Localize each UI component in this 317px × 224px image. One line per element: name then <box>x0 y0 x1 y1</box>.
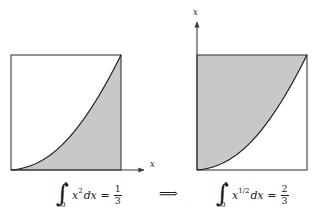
left-axis-label: x <box>150 160 155 169</box>
left-integrand-exponent: 2 <box>78 187 82 195</box>
right-axis-label: x <box>193 8 198 17</box>
left-integrand: x2 <box>70 189 83 201</box>
right-formula: ∫ 1 0 x1/2 dx = 2 3 <box>216 182 289 208</box>
right-integrand-exponent: 1/2 <box>238 187 249 195</box>
right-integral-symbol-group: ∫ 1 0 <box>216 182 229 208</box>
left-integral-upper-limit: 1 <box>64 182 68 189</box>
left-result-fraction: 1 3 <box>114 184 122 207</box>
left-result-denominator: 3 <box>114 196 122 206</box>
right-integral-upper-limit: 1 <box>224 182 228 189</box>
left-integral-symbol-group: ∫ 1 0 <box>56 182 69 208</box>
right-result-numerator: 2 <box>281 184 289 194</box>
implies-arrow-icon: ⟹ <box>159 186 178 201</box>
right-integral-lower-limit: 0 <box>221 202 225 209</box>
left-shaded-area <box>11 55 121 170</box>
right-result-denominator: 3 <box>281 196 289 206</box>
right-result-fraction: 2 3 <box>281 184 289 207</box>
left-result-numerator: 1 <box>114 184 122 194</box>
left-equals-sign: = <box>98 190 113 201</box>
left-plot-group <box>11 55 144 170</box>
right-integrand: x1/2 <box>230 189 249 201</box>
right-equals-sign: = <box>264 190 279 201</box>
right-shaded-area <box>197 55 307 170</box>
left-formula: ∫ 1 0 x2 dx = 1 3 <box>56 182 122 208</box>
left-integral-lower-limit: 0 <box>61 202 65 209</box>
right-differential: dx <box>250 190 263 201</box>
figure-container: x x ∫ 1 0 x2 dx = 1 3 ⟹ ∫ 1 0 x1/2 dx <box>0 0 317 224</box>
left-differential: dx <box>84 190 97 201</box>
right-plot-group <box>197 22 307 170</box>
